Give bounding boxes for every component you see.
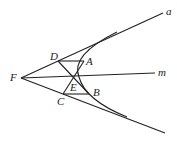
label-m: m	[158, 67, 166, 78]
label-a: a	[166, 6, 172, 17]
diagram-canvas	[0, 0, 177, 149]
line-m	[21, 73, 155, 78]
label-E: E	[70, 82, 77, 93]
label-C: C	[57, 96, 64, 107]
label-F: F	[10, 72, 17, 83]
label-B: B	[93, 87, 100, 98]
line-a	[21, 13, 163, 78]
label-A: A	[86, 56, 93, 67]
geometry-diagram: F D A E C B a m	[0, 0, 177, 149]
label-D: D	[50, 51, 58, 62]
